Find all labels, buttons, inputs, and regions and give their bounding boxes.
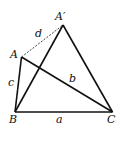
label-a: a [56,113,63,126]
segment-AB [15,57,22,112]
segment-A-prime-C [63,25,113,112]
label-b: b [69,72,76,85]
triangle-diagram: A′ A B C d c b a [0,0,127,141]
label-C: C [107,113,116,126]
segment-AC [22,57,113,112]
label-c: c [8,76,14,89]
label-A-prime: A′ [54,10,66,23]
label-A: A [9,48,18,61]
label-B: B [8,113,17,126]
segment-AA-prime-dashed [22,25,64,57]
label-d: d [35,27,42,40]
